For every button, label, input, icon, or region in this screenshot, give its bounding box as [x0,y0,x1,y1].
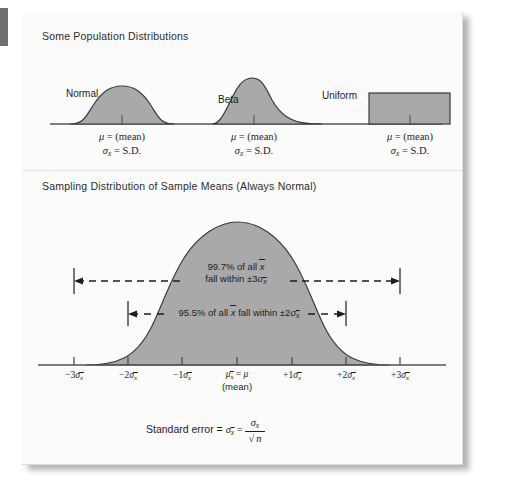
axis-tick-label-plus3sigma: +3σx [370,370,430,381]
axis-tick-label-plus2sigma: +2σx [316,370,376,381]
figure-page: Some Population Distributions [22,12,463,465]
band-955-label: 95.5% of all x fall within ±2σx [161,307,317,321]
bottom-panel-title: Sampling Distribution of Sample Means (A… [42,180,316,192]
beta-sd-label: σx = S.D. [206,144,302,159]
band-997-line1: 99.7% of all x [173,261,299,273]
standard-error-numerator: σx [245,417,264,432]
uniform-mu-label: μ = (mean) [362,130,458,144]
normal-sd-label: σx = S.D. [74,144,170,159]
standard-error-fraction: σx √ n [245,417,264,445]
standard-error-formula: Standard error = σx = σx √ n [146,417,265,445]
band-997-label: 99.7% of all x fall within ±3σx [173,261,299,287]
beta-mu-label: μ = (mean) [206,130,302,144]
normal-mu-label: μ = (mean) [74,130,170,144]
axis-tick-label-mean-line2: (mean) [207,381,267,393]
axis-tick-label-minus3sigma: −3σx [44,370,104,381]
distribution-label-uniform: Uniform [322,90,357,101]
standard-error-denominator: √ n [245,432,264,445]
standard-error-equals: = [237,424,243,435]
axis-tick-label-minus1sigma: −1σx [152,370,212,381]
uniform-stats: μ = (mean) σx = S.D. [362,130,458,159]
axis-tick-label-mean-line1: μx = μ [207,369,267,381]
distribution-label-beta: Beta [218,94,239,105]
standard-error-prefix: Standard error = [146,423,226,435]
normal-stats: μ = (mean) σx = S.D. [74,130,170,159]
axis-tick-label-plus1sigma: +1σx [262,370,322,381]
band-997-line2: fall within ±3σx [173,273,299,287]
beta-stats: μ = (mean) σx = S.D. [206,130,302,159]
page-edge-tab [0,8,8,46]
axis-tick-label-mean: μx = μ (mean) [207,369,267,393]
panel-divider [22,170,462,171]
axis-tick-label-minus2sigma: −2σx [98,370,158,381]
figure-scene: Some Population Distributions [0,0,512,490]
sampling-distribution-curve [86,222,390,365]
uniform-sd-label: σx = S.D. [362,144,458,159]
distribution-label-normal: Normal [66,88,98,99]
figure-graphics [22,12,462,464]
